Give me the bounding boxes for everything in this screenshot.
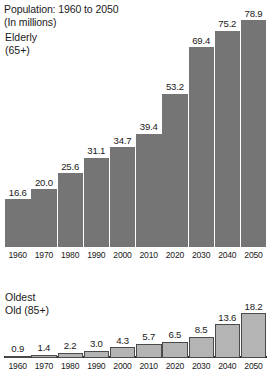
bar-oldest-old bbox=[31, 355, 56, 358]
bar-elderly bbox=[136, 134, 161, 247]
bar-elderly bbox=[84, 158, 109, 247]
chart-oldest-old-85plus: 0.919601.419702.219803.019904.320005.720… bbox=[0, 276, 271, 371]
bar-oldest-old bbox=[189, 337, 214, 358]
bar-elderly bbox=[5, 199, 30, 247]
bar-value-label: 8.5 bbox=[185, 325, 218, 335]
bar-oldest-old bbox=[162, 342, 187, 358]
bar-elderly bbox=[241, 20, 266, 247]
bar-value-label: 16.6 bbox=[1, 188, 34, 198]
bar-oldest-old bbox=[110, 347, 135, 358]
bar-elderly bbox=[58, 173, 83, 247]
bar-value-label: 69.4 bbox=[185, 36, 218, 46]
bar-value-label: 20.0 bbox=[27, 178, 60, 188]
chart-elderly-65plus: 16.6196020.0197025.6198031.1199034.72000… bbox=[0, 0, 271, 268]
bar-oldest-old bbox=[5, 356, 30, 358]
x-axis-tick-label: 2050 bbox=[238, 361, 269, 371]
bar-value-label: 78.9 bbox=[237, 9, 270, 19]
bar-oldest-old bbox=[136, 344, 161, 358]
bar-value-label: 25.6 bbox=[54, 162, 87, 172]
bar-value-label: 39.4 bbox=[132, 122, 165, 132]
bar-value-label: 53.2 bbox=[158, 82, 191, 92]
bar-oldest-old bbox=[58, 353, 83, 358]
bar-value-label: 31.1 bbox=[80, 146, 113, 156]
bar-oldest-old bbox=[241, 313, 266, 358]
bar-value-label: 18.2 bbox=[237, 302, 270, 312]
bar-elderly bbox=[31, 189, 56, 247]
bar-elderly bbox=[189, 47, 214, 247]
bar-elderly bbox=[215, 31, 240, 247]
bar-value-label: 34.7 bbox=[106, 136, 139, 146]
source-note-clipped bbox=[0, 374, 271, 381]
bar-value-label: 75.2 bbox=[211, 19, 244, 29]
bar-elderly bbox=[162, 94, 187, 247]
bar-elderly bbox=[110, 147, 135, 247]
x-axis-tick-label: 2050 bbox=[238, 250, 269, 260]
bar-oldest-old bbox=[215, 324, 240, 358]
bar-value-label: 13.6 bbox=[211, 313, 244, 323]
bar-oldest-old bbox=[84, 351, 109, 358]
